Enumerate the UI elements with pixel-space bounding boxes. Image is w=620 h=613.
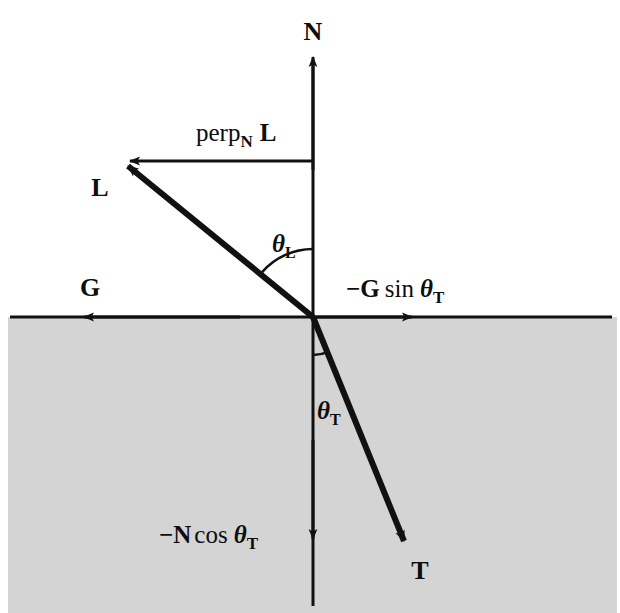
g-sin-term-label: −GsinθT [346, 275, 445, 307]
n-cos-func: cos [194, 521, 227, 548]
n-cos-vector-n: N [173, 521, 191, 548]
theta-incident-label: θL [272, 230, 296, 261]
g-sin-subscript-t: T [433, 288, 445, 307]
theta-incident-glyph: θ [272, 230, 285, 257]
n-cos-subscript-t: T [247, 534, 259, 553]
refraction-diagram: N L T G perpNL −GsinθT −NcosθT θL θT [0, 0, 620, 613]
perp-vector-l: L [260, 119, 277, 146]
surface-tangent-vector-label: G [80, 273, 100, 302]
transmitted-vector-label: T [411, 556, 428, 585]
perp-func-text: perp [196, 119, 240, 146]
perp-component-label: perpNL [196, 119, 276, 151]
g-sin-sign: − [346, 275, 360, 302]
normal-vector-label: N [304, 17, 323, 46]
g-sin-theta: θ [420, 275, 433, 302]
n-cos-sign: − [159, 521, 173, 548]
perp-subscript-n: N [240, 132, 253, 151]
light-vector-label: L [91, 173, 108, 202]
theta-incident-subscript-l: L [285, 244, 296, 261]
g-sin-func: sin [385, 275, 415, 302]
theta-transmitted-glyph: θ [317, 397, 330, 424]
theta-transmitted-subscript-t: T [330, 411, 341, 428]
figure-root: N L T G perpNL −GsinθT −NcosθT θL θT [0, 0, 620, 613]
g-sin-vector-g: G [360, 275, 379, 302]
n-cos-theta: θ [234, 521, 247, 548]
light-vector-arrow [128, 166, 313, 317]
